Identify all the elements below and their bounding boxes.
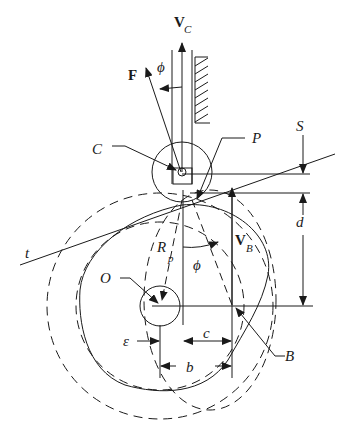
guide-hatch — [195, 57, 210, 123]
label-b: b — [186, 359, 194, 375]
label-phi-mid: ϕ — [193, 257, 201, 273]
cam-follower-diagram: V C F ϕ C P S d t R p V B ϕ O ε c B b — [0, 0, 355, 432]
label-vc-sub: C — [184, 23, 192, 35]
label-vb: V — [235, 232, 246, 248]
label-vb-sub: B — [246, 242, 253, 254]
label-epsilon: ε — [123, 333, 129, 349]
label-c: c — [203, 325, 210, 341]
label-s: S — [296, 118, 304, 134]
label-point-o: O — [100, 270, 111, 286]
label-d: d — [296, 214, 304, 230]
label-force: F — [128, 67, 137, 83]
label-point-c: C — [92, 141, 103, 157]
label-point-p: P — [251, 130, 261, 146]
label-point-b: B — [285, 348, 294, 364]
label-r: R — [156, 239, 166, 255]
force-arrow — [146, 68, 181, 172]
label-t: t — [25, 245, 30, 261]
tangent-line — [20, 154, 335, 265]
label-r-sub: p — [167, 252, 174, 264]
label-phi-top: ϕ — [157, 59, 165, 75]
pitch-curve — [144, 190, 276, 410]
